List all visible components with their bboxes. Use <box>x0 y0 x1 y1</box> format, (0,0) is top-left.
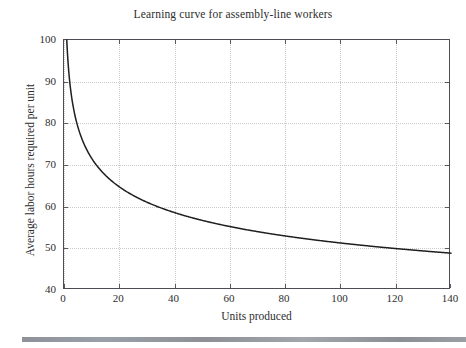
learning-curve-line <box>64 40 451 290</box>
learning-curve-figure: Learning curve for assembly-line workers <box>0 0 466 348</box>
x-tick-label: 0 <box>60 292 66 304</box>
x-tick-label: 80 <box>279 292 290 304</box>
y-axis-label: Average labor hours required per unit <box>24 40 36 300</box>
x-tick-label: 20 <box>113 292 124 304</box>
x-tick-label: 40 <box>168 292 179 304</box>
plot-area <box>63 39 450 289</box>
x-tick-label: 120 <box>386 292 403 304</box>
page-edge-bar <box>22 337 466 342</box>
x-tick-label: 100 <box>331 292 348 304</box>
x-axis-label: Units produced <box>63 310 450 322</box>
x-tick-label: 140 <box>442 292 459 304</box>
x-tick-label: 60 <box>223 292 234 304</box>
chart-title: Learning curve for assembly-line workers <box>0 8 466 20</box>
